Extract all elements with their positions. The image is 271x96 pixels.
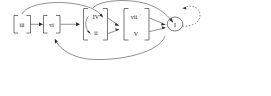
edge-v-to-i <box>150 26 167 31</box>
edge-dashed-self-loop-i <box>183 6 201 26</box>
arrowhead-vii-i <box>161 23 166 26</box>
edge-vi-to-iv-ii <box>61 22 81 26</box>
bracket-left-vi <box>44 16 48 34</box>
arrowhead-arc-v-vi <box>55 39 58 44</box>
node-label-vii: vii <box>131 14 138 20</box>
edge-iii-to-vi <box>31 22 43 26</box>
edge-v-to-vi-arc <box>55 36 165 60</box>
node-label-v: V <box>134 31 139 37</box>
arrowhead-self-loop-i <box>182 7 186 10</box>
node-label-iv: IV <box>93 14 100 20</box>
edge-line-v-i <box>150 29 164 32</box>
diagram-canvas: iii vi IV ii vii ° V I <box>0 0 271 96</box>
bracket-left-iii <box>14 16 18 34</box>
node-vi: vi <box>44 16 61 34</box>
edge-arc-iii-ivii <box>22 3 101 15</box>
edge-vii-to-i <box>150 18 167 26</box>
edge-line-ii-viiv <box>108 31 117 34</box>
node-label-vi: vi <box>49 22 54 28</box>
bracket-right-vii-v <box>145 9 150 41</box>
node-group-iv-ii: IV ii <box>84 9 108 41</box>
edge-i-self-loop <box>182 6 200 26</box>
edge-line-vii-i <box>150 18 164 24</box>
node-group-vii-v: vii ° V <box>124 9 149 41</box>
node-label-iii: iii <box>19 22 24 28</box>
bracket-right-vi <box>56 16 60 34</box>
bracket-right-iii <box>27 16 31 34</box>
edge-iv-to-vii-v <box>108 18 120 26</box>
node-label-vii-diminished-symbol: ° <box>140 14 142 18</box>
node-label-i: I <box>174 22 176 28</box>
edge-iii-to-iv-ii-arc <box>22 3 103 18</box>
arrowhead-iii-vi <box>39 22 43 26</box>
node-i: I <box>167 17 183 31</box>
node-label-ii: ii <box>94 30 98 36</box>
bracket-left-vii-v <box>124 9 129 41</box>
edge-iv-to-ii <box>86 16 89 33</box>
arrowhead-vi-ivii <box>76 22 80 26</box>
edge-ii-to-vii-v <box>108 28 120 33</box>
bracket-right-iv-ii <box>103 9 108 41</box>
edge-line-iv-viiv <box>108 18 117 24</box>
harmonic-flow-diagram: iii vi IV ii vii ° V I <box>0 0 271 96</box>
node-iii: iii <box>14 16 31 34</box>
